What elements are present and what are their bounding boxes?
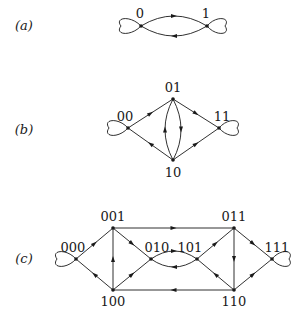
node-label: 100 xyxy=(101,294,126,309)
arrowhead-icon xyxy=(171,249,177,253)
panel-label: (c) xyxy=(15,251,32,266)
arrowhead-icon xyxy=(171,226,177,230)
node-label: 10 xyxy=(165,165,182,180)
panel-label: (b) xyxy=(15,122,33,137)
edge-01-to-10 xyxy=(173,99,183,160)
edge-00-to-01 xyxy=(128,99,173,128)
node-110 xyxy=(232,288,236,292)
arrowhead-icon xyxy=(171,265,177,269)
node-10 xyxy=(171,158,175,162)
node-label: 110 xyxy=(222,294,247,309)
arrowhead-icon xyxy=(171,14,177,18)
node-010 xyxy=(149,257,153,261)
node-001 xyxy=(111,226,115,230)
node-label: 101 xyxy=(178,240,203,255)
node-00 xyxy=(126,126,130,130)
arrowhead-icon xyxy=(232,256,236,262)
arrowhead-icon xyxy=(179,127,183,133)
arrowhead-icon xyxy=(171,34,177,38)
node-label: 01 xyxy=(165,80,182,95)
node-01 xyxy=(171,97,175,101)
node-label: 00 xyxy=(117,109,134,124)
edge-01-to-11 xyxy=(173,99,219,128)
node-11 xyxy=(217,126,221,130)
edge-100-to-000 xyxy=(76,259,113,290)
edge-101-to-011 xyxy=(197,228,234,259)
edge-110-to-101 xyxy=(197,259,234,290)
node-111 xyxy=(270,257,274,261)
node-label: 000 xyxy=(61,240,86,255)
arrowhead-icon xyxy=(147,141,154,148)
edge-110-to-100 xyxy=(113,288,234,292)
arrowhead-icon xyxy=(171,288,177,292)
node-label: 010 xyxy=(145,240,170,255)
edge-0-to-1 xyxy=(141,14,207,26)
edge-10-to-11 xyxy=(173,128,219,160)
node-100 xyxy=(111,288,115,292)
node-000 xyxy=(74,257,78,261)
node-label: 1 xyxy=(202,6,210,21)
node-label: 111 xyxy=(265,240,290,255)
node-0 xyxy=(139,24,143,28)
arrowhead-icon xyxy=(192,110,199,117)
panel-a: (a)01 xyxy=(15,6,226,38)
node-011 xyxy=(232,226,236,230)
panel-label: (a) xyxy=(15,18,33,33)
edge-110-to-111 xyxy=(234,259,272,290)
node-101 xyxy=(195,257,199,261)
arrowhead-icon xyxy=(192,141,199,148)
edge-101-to-010 xyxy=(151,259,197,269)
edge-011-to-110 xyxy=(232,228,236,290)
node-label: 011 xyxy=(222,209,247,224)
panel-b: (b)00011110 xyxy=(15,80,239,180)
edge-1-to-0 xyxy=(141,26,207,38)
arrowhead-icon xyxy=(163,127,167,133)
node-label: 001 xyxy=(101,209,126,224)
edge-100-to-010 xyxy=(113,259,151,290)
edge-100-to-001 xyxy=(111,228,115,290)
edge-10-to-01 xyxy=(163,99,173,160)
edge-001-to-011 xyxy=(113,226,234,230)
de-bruijn-diagram: (a)01 (b)00011110 (c)0000011000101010111… xyxy=(0,0,301,309)
arrowhead-icon xyxy=(147,110,154,117)
node-label: 11 xyxy=(214,109,231,124)
edge-10-to-00 xyxy=(128,128,173,160)
panel-c: (c)000001100010101011110111 xyxy=(15,209,290,309)
node-1 xyxy=(205,24,209,28)
arrowhead-icon xyxy=(111,256,115,262)
node-label: 0 xyxy=(136,6,144,21)
